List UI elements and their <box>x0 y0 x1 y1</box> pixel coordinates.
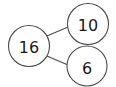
connector-whole-to-part-1 <box>47 27 68 36</box>
part-node-2: 6 <box>67 46 107 86</box>
whole-node: 16 <box>9 26 50 67</box>
whole-value: 16 <box>19 38 39 57</box>
connector-whole-to-part-2 <box>47 56 68 65</box>
part-1-value: 10 <box>78 16 98 35</box>
part-2-value: 6 <box>82 59 92 78</box>
part-node-1: 10 <box>68 4 109 45</box>
number-bond-diagram: 16 10 6 <box>0 0 116 87</box>
